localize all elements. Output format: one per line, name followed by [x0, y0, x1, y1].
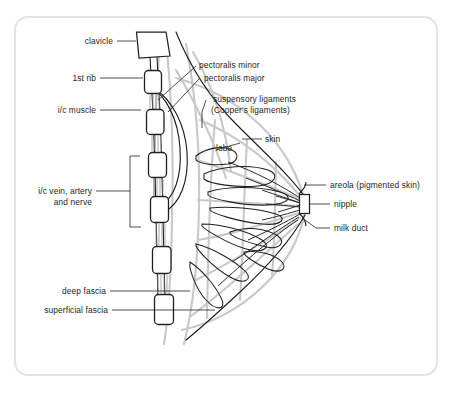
label-ic-vessels-line1: i/c vein, artery — [0, 186, 92, 197]
label-ic-muscle: i/c muscle — [0, 105, 96, 116]
leader-milk-duct — [305, 220, 330, 228]
label-suspensory-ligaments-line1: suspensory ligaments — [213, 94, 296, 105]
label-lobe: lobe — [216, 143, 232, 154]
rib-segment-6 — [155, 295, 174, 325]
rib-segment-4 — [151, 197, 169, 223]
label-ic-vessels-line2: and nerve — [0, 197, 92, 208]
rib-segment-2 — [147, 110, 165, 135]
label-suspensory-ligaments-line2: (Cooper's ligaments) — [211, 105, 290, 116]
rib-segment-3 — [149, 153, 167, 178]
label-areola: areola (pigmented skin) — [330, 180, 420, 191]
label-first-rib: 1st rib — [0, 73, 96, 84]
label-skin: skin — [265, 134, 280, 145]
rib-segment-5 — [153, 247, 172, 274]
label-nipple: nipple — [334, 199, 357, 210]
label-superficial-fascia: superficial fascia — [0, 305, 108, 316]
clavicle-bone — [137, 32, 171, 58]
label-pectoralis-minor: pectoralis minor — [199, 60, 260, 71]
label-pectoralis-major: pectoralis major — [204, 73, 265, 84]
label-milk-duct: milk duct — [334, 223, 368, 234]
label-clavicle: clavicle — [0, 36, 113, 47]
label-deep-fascia: deep fascia — [0, 286, 106, 297]
nipple-body — [300, 195, 310, 214]
rib-segment-1 — [145, 71, 162, 94]
breast-anatomy-diagram: clavicle 1st rib i/c muscle i/c vein, ar… — [0, 0, 464, 394]
